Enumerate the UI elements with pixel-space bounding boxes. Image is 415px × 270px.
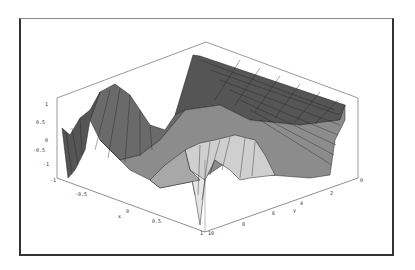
- svg-text:2: 2: [330, 190, 333, 196]
- svg-text:0.5: 0.5: [152, 218, 161, 224]
- svg-text:0: 0: [126, 208, 129, 214]
- svg-text:-1: -1: [50, 177, 56, 183]
- svg-text:0.5: 0.5: [36, 119, 45, 125]
- z-axis-ticks: 1 0.5 0 -0.5 -1: [33, 101, 49, 167]
- y-axis-ticks: 10 8 6 4 2 0 y: [208, 177, 363, 236]
- svg-text:6: 6: [272, 210, 275, 216]
- svg-text:0: 0: [360, 177, 363, 183]
- svg-text:4: 4: [300, 200, 303, 206]
- svg-text:1: 1: [45, 101, 48, 107]
- svg-text:8: 8: [242, 221, 245, 227]
- svg-text:x: x: [118, 213, 121, 219]
- svg-text:10: 10: [208, 230, 214, 236]
- x-axis-ticks: -1 -0.5 0 0.5 1 x: [50, 177, 203, 236]
- svg-text:-0.5: -0.5: [75, 191, 87, 197]
- svg-text:-0.5: -0.5: [33, 147, 45, 153]
- svg-text:-1: -1: [43, 161, 49, 167]
- svg-text:0: 0: [45, 137, 48, 143]
- surface-plot: 1 0.5 0 -0.5 -1 -1 -0.5 0 0.5 1 x 10 8 6…: [0, 0, 415, 270]
- svg-text:1: 1: [200, 230, 203, 236]
- svg-text:y: y: [293, 207, 296, 214]
